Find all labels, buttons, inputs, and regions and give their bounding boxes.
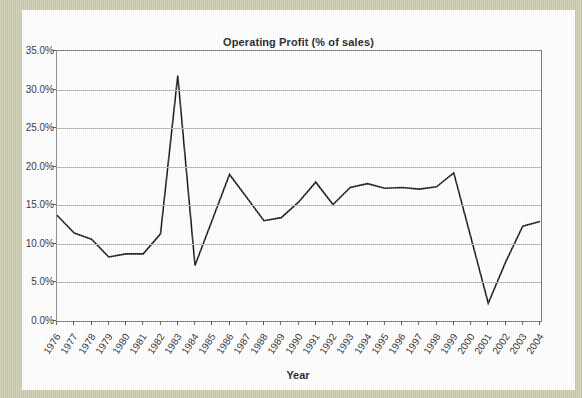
y-axis-tick-mark [52, 50, 56, 51]
y-axis-tick-label: 0.0% [22, 315, 54, 326]
x-axis-tick-mark [246, 321, 247, 325]
x-axis-tick-mark [91, 321, 92, 325]
x-axis-tick-mark [56, 321, 57, 325]
x-axis-tick-mark [142, 321, 143, 325]
y-axis-tick-label: 5.0% [22, 276, 54, 287]
y-axis-tick-mark [52, 204, 56, 205]
gridline [57, 167, 541, 168]
x-axis-tick-mark [194, 321, 195, 325]
x-axis-tick-mark [436, 321, 437, 325]
line-series [57, 51, 541, 321]
x-axis-tick-mark [263, 321, 264, 325]
x-axis-tick-mark [108, 321, 109, 325]
gridline [57, 90, 541, 91]
x-axis-tick-mark [384, 321, 385, 325]
x-axis-tick-mark [349, 321, 350, 325]
x-axis-tick-mark [401, 321, 402, 325]
x-axis-tick-mark [73, 321, 74, 325]
x-axis-tick-mark [487, 321, 488, 325]
x-axis-tick-mark [418, 321, 419, 325]
gridline [57, 244, 541, 245]
x-axis-tick-mark [177, 321, 178, 325]
x-axis-tick-mark [332, 321, 333, 325]
chart-paper: Operating Profit (% of sales) Year 0.0%5… [22, 10, 575, 390]
x-axis-tick-mark [505, 321, 506, 325]
gridline [57, 282, 541, 283]
y-axis-tick-label: 15.0% [22, 199, 54, 210]
y-axis-tick-mark [52, 281, 56, 282]
x-axis-tick-mark [315, 321, 316, 325]
x-axis-tick-mark [522, 321, 523, 325]
gridline [57, 128, 541, 129]
y-axis-tick-label: 10.0% [22, 237, 54, 248]
page-border: Operating Profit (% of sales) Year 0.0%5… [0, 0, 582, 398]
x-axis-tick-mark [470, 321, 471, 325]
x-axis-tick-mark [229, 321, 230, 325]
y-axis-tick-label: 30.0% [22, 83, 54, 94]
y-axis-tick-mark [52, 166, 56, 167]
plot-area [56, 50, 542, 322]
x-axis-tick-mark [160, 321, 161, 325]
x-axis-tick-mark [280, 321, 281, 325]
y-axis-tick-label: 20.0% [22, 160, 54, 171]
y-axis-tick-mark [52, 89, 56, 90]
y-axis-tick-label: 25.0% [22, 122, 54, 133]
chart-title: Operating Profit (% of sales) [22, 36, 575, 48]
y-axis-tick-label: 35.0% [22, 45, 54, 56]
x-axis-tick-mark [125, 321, 126, 325]
x-axis-tick-mark [453, 321, 454, 325]
gridline [57, 205, 541, 206]
y-axis-tick-mark [52, 243, 56, 244]
x-axis-tick-mark [539, 321, 540, 325]
y-axis-tick-mark [52, 127, 56, 128]
operating-profit-line [57, 76, 540, 304]
x-axis-tick-mark [367, 321, 368, 325]
x-axis-tick-mark [298, 321, 299, 325]
x-axis-tick-mark [211, 321, 212, 325]
